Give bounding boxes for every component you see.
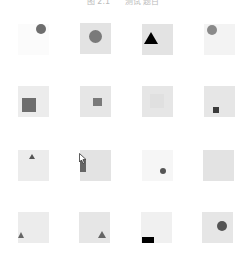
caption-right: 测试 题目 xyxy=(125,0,160,6)
tile-r4-c1[interactable] xyxy=(18,212,49,243)
square-icon xyxy=(213,107,219,113)
tile-r1-c2[interactable] xyxy=(80,23,111,54)
circle-icon xyxy=(89,30,102,43)
circle-icon xyxy=(160,168,166,174)
triangle-icon xyxy=(29,154,35,159)
tile-r4-c4[interactable] xyxy=(202,212,233,243)
tile-r1-c4[interactable] xyxy=(204,24,235,55)
tile-r2-c2[interactable] xyxy=(80,86,111,117)
header-caption: 图 2.1 测试 题目 xyxy=(0,0,246,5)
tile-r3-c3[interactable] xyxy=(142,150,173,181)
rectangle-icon xyxy=(142,237,154,243)
square-icon xyxy=(150,94,164,108)
tile-r2-c4[interactable] xyxy=(204,86,235,117)
circle-icon xyxy=(217,221,227,231)
triangle-icon xyxy=(98,231,106,238)
triangle-icon xyxy=(18,232,24,238)
circle-icon xyxy=(36,24,46,34)
tile-r1-c3[interactable] xyxy=(142,24,173,55)
square-icon xyxy=(22,98,36,112)
tile-r4-c2[interactable] xyxy=(79,212,110,243)
tile-r4-c3[interactable] xyxy=(141,212,172,243)
square-icon xyxy=(93,98,102,106)
tile-r2-c1[interactable] xyxy=(18,86,49,117)
triangle-icon xyxy=(144,32,158,44)
tile-r3-c1[interactable] xyxy=(18,150,49,181)
tile-r3-c4[interactable] xyxy=(203,150,234,181)
caption-left: 图 2.1 xyxy=(87,0,110,6)
circle-icon xyxy=(207,25,217,35)
tile-r2-c3[interactable] xyxy=(142,86,173,117)
arrow-cursor-icon xyxy=(79,153,87,164)
tile-r1-c1[interactable] xyxy=(18,24,49,55)
